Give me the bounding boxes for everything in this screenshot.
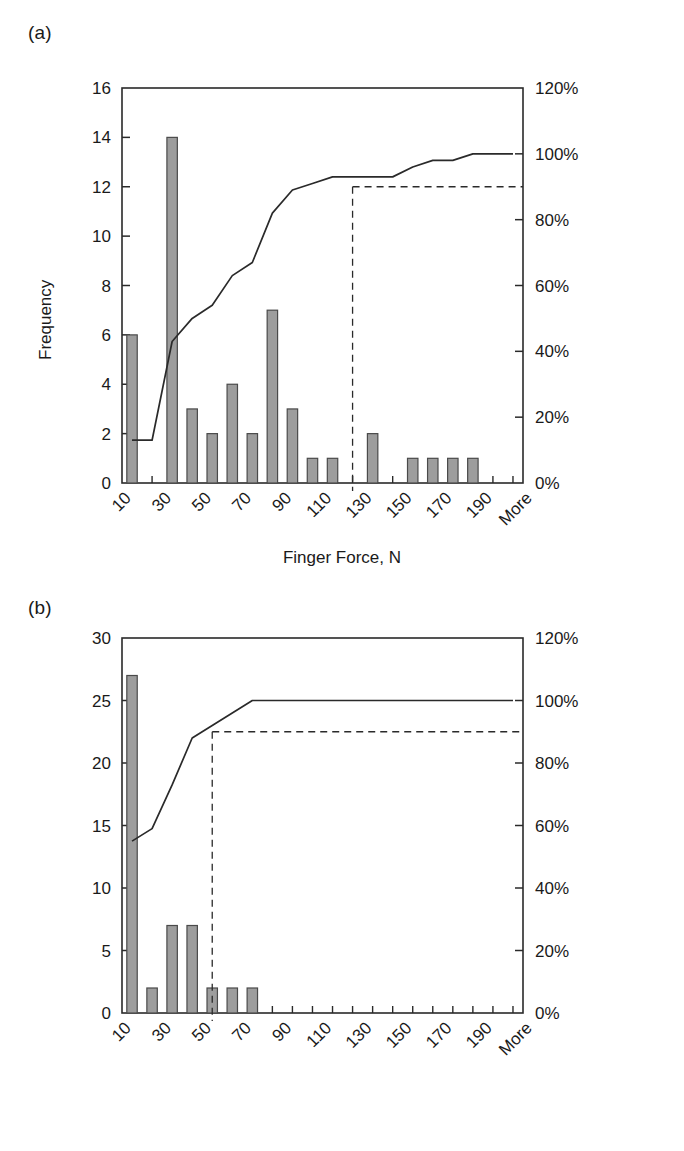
x-axis-tick-label: 150 — [382, 1018, 415, 1051]
x-axis-tick-label: 170 — [422, 488, 455, 521]
bar — [187, 409, 197, 483]
y-axis-tick-label: 5 — [102, 942, 111, 961]
y-axis-tick-label: 2 — [102, 425, 111, 444]
bar — [247, 988, 257, 1013]
x-axis-tick-label: More — [495, 488, 536, 529]
y2-axis-tick-label: 40% — [535, 879, 569, 898]
y-axis-tick-label: 6 — [102, 326, 111, 345]
y2-axis-tick-label: 120% — [535, 629, 578, 648]
x-axis-tick-label: More — [495, 1018, 536, 1059]
x-axis-tick-label: 130 — [342, 1018, 375, 1051]
y2-axis-tick-label: 20% — [535, 408, 569, 427]
bar — [227, 384, 237, 483]
chart-b-plot: 0510152025300%20%40%60%80%100%120%103050… — [0, 575, 684, 1115]
y2-axis-tick-label: 120% — [535, 79, 578, 98]
y-axis-tick-label: 30 — [92, 629, 111, 648]
bar — [408, 458, 418, 483]
bar — [147, 988, 157, 1013]
y2-axis-tick-label: 20% — [535, 942, 569, 961]
cumulative-percent-line — [132, 154, 513, 440]
x-axis-title-a: Finger Force, N — [0, 548, 684, 568]
y-axis-tick-label: 0 — [102, 474, 111, 493]
x-axis-tick-label: 70 — [228, 1018, 255, 1045]
bar — [247, 434, 257, 483]
x-axis-tick-label: 130 — [342, 488, 375, 521]
bar — [287, 409, 297, 483]
y2-axis-tick-label: 60% — [535, 817, 569, 836]
x-axis-tick-label: 110 — [303, 488, 336, 521]
chart-panel-b: (b) 0510152025300%20%40%60%80%100%120%10… — [0, 575, 684, 1151]
y2-axis-tick-label: 100% — [535, 692, 578, 711]
x-axis-tick-label: 10 — [108, 1018, 135, 1045]
bar — [127, 335, 137, 483]
bar — [167, 926, 177, 1014]
x-axis-tick-label: 150 — [382, 488, 415, 521]
bar — [267, 310, 277, 483]
y2-axis-tick-label: 80% — [535, 754, 569, 773]
bar — [207, 434, 217, 483]
y-axis-tick-label: 10 — [92, 227, 111, 246]
y-axis-tick-label: 14 — [92, 128, 111, 147]
y2-axis-tick-label: 0% — [535, 1004, 560, 1023]
y-axis-title-a: Frequency — [36, 280, 56, 360]
y-axis-tick-label: 10 — [92, 879, 111, 898]
y-axis-tick-label: 25 — [92, 692, 111, 711]
x-axis-tick-label: 90 — [268, 1018, 295, 1045]
x-axis-tick-label: 190 — [462, 488, 495, 521]
y-axis-tick-label: 12 — [92, 178, 111, 197]
x-axis-tick-label: 50 — [188, 488, 215, 515]
x-axis-tick-label: 190 — [462, 1018, 495, 1051]
y-axis-tick-label: 15 — [92, 817, 111, 836]
x-axis-tick-label: 10 — [108, 488, 135, 515]
plot-frame — [122, 88, 523, 483]
bar — [227, 988, 237, 1013]
y2-axis-tick-label: 40% — [535, 342, 569, 361]
bar — [307, 458, 317, 483]
y2-axis-tick-label: 100% — [535, 145, 578, 164]
bar — [448, 458, 458, 483]
bar — [428, 458, 438, 483]
x-axis-tick-label: 30 — [148, 488, 175, 515]
bar — [468, 458, 478, 483]
bar — [167, 137, 177, 483]
bar — [127, 676, 137, 1014]
x-axis-tick-label: 170 — [422, 1018, 455, 1051]
y-axis-tick-label: 4 — [102, 375, 111, 394]
chart-a-plot: 02468101214160%20%40%60%80%100%120%10305… — [0, 0, 684, 540]
y2-axis-tick-label: 60% — [535, 277, 569, 296]
bar — [327, 458, 337, 483]
bar — [187, 926, 197, 1014]
x-axis-tick-label: 90 — [268, 488, 295, 515]
cumulative-percent-line — [132, 701, 513, 842]
y-axis-tick-label: 16 — [92, 79, 111, 98]
y-axis-tick-label: 20 — [92, 754, 111, 773]
x-axis-tick-label: 110 — [303, 1018, 336, 1051]
y2-axis-tick-label: 80% — [535, 211, 569, 230]
bar — [367, 434, 377, 483]
x-axis-tick-label: 50 — [188, 1018, 215, 1045]
pareto-figure: (a) 02468101214160%20%40%60%80%100%120%1… — [0, 0, 684, 1151]
x-axis-tick-label: 30 — [148, 1018, 175, 1045]
y-axis-tick-label: 0 — [102, 1004, 111, 1023]
plot-frame — [122, 638, 523, 1013]
chart-panel-a: (a) 02468101214160%20%40%60%80%100%120%1… — [0, 0, 684, 575]
x-axis-tick-label: 70 — [228, 488, 255, 515]
y2-axis-tick-label: 0% — [535, 474, 560, 493]
y-axis-tick-label: 8 — [102, 277, 111, 296]
